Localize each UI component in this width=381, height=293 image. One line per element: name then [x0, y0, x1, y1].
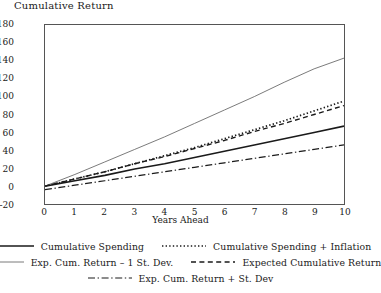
legend-item-label: Cumulative Spending	[41, 241, 144, 252]
legend-item-label: Expected Cumulative Return	[242, 257, 381, 268]
legend-item: Exp. Cum. Return – 1 St. Dev.	[0, 257, 173, 268]
y-tick-label: 160	[0, 37, 14, 47]
y-tick-label: 80	[3, 110, 14, 120]
series-line-3	[45, 106, 344, 187]
y-tick-label: 0	[8, 182, 14, 192]
plot-area	[44, 24, 345, 205]
legend-item: Cumulative Spending	[0, 241, 144, 252]
y-tick-label: 20	[3, 164, 14, 174]
y-tick-label: 140	[0, 55, 14, 65]
legend-row: Exp. Cum. Return + St. Dev	[0, 270, 361, 286]
legend-key-dotted	[162, 241, 206, 251]
legend-item-label: Exp. Cum. Return + St. Dev	[139, 273, 274, 284]
legend-item-label: Cumulative Spending + Inflation	[213, 241, 371, 252]
legend-item: Exp. Cum. Return + St. Dev	[88, 273, 274, 284]
legend-key-dashed	[191, 257, 235, 267]
legend-key-solid-thin	[0, 257, 24, 267]
y-tick-label: 100	[0, 91, 14, 101]
series-line-4	[45, 145, 344, 190]
y-tick-label: 120	[0, 73, 14, 83]
y-tick-label: 40	[3, 146, 14, 156]
legend-item-label: Exp. Cum. Return – 1 St. Dev.	[31, 257, 174, 268]
legend-key-solid	[0, 241, 34, 251]
series-lines	[45, 25, 344, 204]
legend-item: Expected Cumulative Return	[191, 257, 381, 268]
chart-title: Cumulative Return	[14, 0, 114, 11]
x-axis-label: Years Ahead	[0, 215, 361, 225]
chart-legend: Cumulative SpendingCumulative Spending +…	[0, 238, 361, 286]
series-line-0	[45, 126, 344, 186]
legend-item: Cumulative Spending + Inflation	[162, 241, 371, 252]
y-tick-label: -20	[0, 200, 14, 210]
legend-key-dashdot	[88, 273, 132, 283]
y-tick-label: 180	[0, 19, 14, 29]
y-tick-label: 60	[3, 128, 14, 138]
legend-row: Cumulative SpendingCumulative Spending +…	[0, 238, 361, 254]
series-line-1	[45, 101, 344, 186]
legend-row: Exp. Cum. Return – 1 St. Dev.Expected Cu…	[0, 254, 361, 270]
